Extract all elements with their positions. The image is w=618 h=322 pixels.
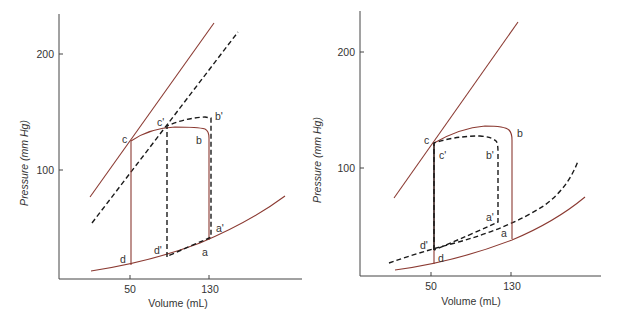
right-label-b: b [517,127,523,139]
left-y-tick-label-200: 200 [36,48,54,60]
right-panel: 200 100 50 130 Volume (mL) Pressure (mm … [311,11,601,307]
left-label-a-prime: a' [216,222,224,234]
right-edpvr-dashed [389,161,578,263]
left-label-c-prime: c' [157,116,164,128]
right-pv-loop-solid [434,126,512,264]
right-label-c-prime: c' [439,149,446,161]
left-label-a: a [202,246,208,258]
left-y-tick-label-100: 100 [36,164,54,176]
right-label-d: d [438,252,444,264]
left-x-axis-title: Volume (mL) [148,297,208,309]
right-edpvr-solid [395,197,585,270]
left-label-d: d [120,253,126,265]
pressure-volume-diagram: 200 100 50 130 Volume (mL) Pressure (mm … [0,0,618,322]
right-x-tick-label-130: 130 [503,280,521,292]
right-x-axis-title: Volume (mL) [441,295,501,307]
left-x-tick-label-130: 130 [201,283,219,295]
right-y-tick-label-200: 200 [337,46,355,58]
right-label-d-prime: d' [420,239,428,251]
left-label-c: c [122,133,127,145]
right-label-b-prime: b' [486,149,494,161]
right-label-c: c [424,134,429,146]
right-x-tick-label-50: 50 [425,280,437,292]
left-label-b: b [196,134,202,146]
left-espvr-solid [90,23,214,197]
left-label-b-prime: b' [215,110,223,122]
left-pv-loop-dashed [167,117,211,257]
right-y-tick-label-100: 100 [337,162,355,174]
right-espvr [394,22,518,198]
right-label-a: a [501,227,507,239]
left-y-axis-title: Pressure (mm Hg) [18,120,30,206]
left-panel: 200 100 50 130 Volume (mL) Pressure (mm … [18,14,302,309]
left-x-tick-label-50: 50 [124,283,136,295]
left-label-d-prime: d' [154,244,162,256]
right-y-axis-title: Pressure (mm Hg) [311,117,323,203]
right-label-a-prime: a' [486,211,494,223]
